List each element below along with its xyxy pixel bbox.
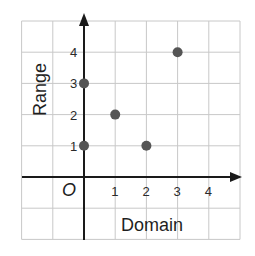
y-tick-labels: 1234 xyxy=(70,45,77,154)
y-tick-label: 4 xyxy=(70,45,77,60)
data-point xyxy=(79,141,89,151)
y-tick-label: 1 xyxy=(70,139,77,154)
origin-label: O xyxy=(62,180,76,200)
x-axis-label: Domain xyxy=(121,215,183,235)
y-tick-label: 2 xyxy=(70,108,77,123)
scatter-plot: 1234 1234 O Domain Range xyxy=(0,0,255,256)
data-point xyxy=(110,110,120,120)
data-point xyxy=(141,141,151,151)
data-points xyxy=(79,47,183,151)
x-tick-label: 2 xyxy=(142,184,149,199)
x-tick-label: 3 xyxy=(174,184,181,199)
x-tick-label: 4 xyxy=(205,184,212,199)
data-point xyxy=(173,47,183,57)
x-tick-labels: 1234 xyxy=(111,184,212,199)
data-point xyxy=(79,78,89,88)
x-tick-label: 1 xyxy=(111,184,118,199)
y-axis-arrow-icon xyxy=(79,13,89,26)
grid xyxy=(22,21,240,239)
y-tick-label: 3 xyxy=(70,76,77,91)
y-axis-label: Range xyxy=(30,63,50,116)
